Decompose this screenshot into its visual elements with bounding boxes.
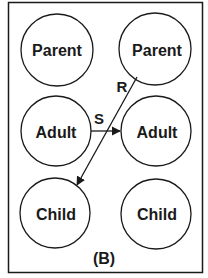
node-label: Adult xyxy=(137,124,179,141)
diagram-canvas: Parent Parent Adult Adult Child Child S xyxy=(0,0,208,278)
edge-r-label: R xyxy=(117,78,128,95)
edge-r: R xyxy=(77,77,137,185)
node-parent-left: Parent xyxy=(21,14,93,86)
edge-s: S xyxy=(91,110,120,131)
node-adult-left: Adult xyxy=(21,96,91,166)
node-child-left: Child xyxy=(20,178,90,248)
node-label: Adult xyxy=(36,124,78,141)
edge-s-label: S xyxy=(94,110,104,127)
edge-r-arrow xyxy=(77,77,137,185)
node-parent-right: Parent xyxy=(119,13,191,85)
node-adult-right: Adult xyxy=(121,96,191,166)
family-relationship-diagram: Parent Parent Adult Adult Child Child S xyxy=(0,0,208,278)
node-label: Child xyxy=(36,206,76,223)
panel-label: (B) xyxy=(93,250,115,267)
node-child-right: Child xyxy=(121,179,191,249)
node-label: Parent xyxy=(32,42,82,59)
node-label: Parent xyxy=(132,42,182,59)
node-label: Child xyxy=(137,206,177,223)
